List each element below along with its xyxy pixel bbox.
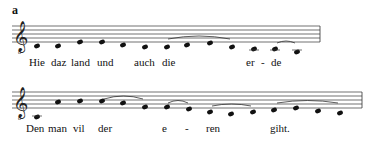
lyric-syllable: - [185, 122, 189, 134]
notehead [227, 111, 234, 117]
notehead [163, 44, 170, 50]
notehead [76, 98, 83, 104]
notehead [119, 42, 126, 48]
notehead [249, 109, 256, 115]
notehead [314, 108, 321, 114]
notehead [54, 43, 61, 49]
notehead [250, 46, 257, 52]
lyric-syllable: land [71, 56, 90, 68]
lyric-syllable: der [98, 122, 112, 134]
notehead [33, 114, 40, 120]
octave-8-marker: 8 [18, 115, 21, 121]
notehead [141, 104, 148, 110]
slur [104, 96, 143, 99]
notehead [185, 106, 192, 112]
lyric-syllable: e [162, 122, 167, 134]
notehead [206, 40, 213, 46]
notehead [98, 39, 105, 45]
slur [168, 101, 188, 104]
lyric-syllable: die [162, 56, 175, 68]
notehead [119, 100, 126, 106]
lyric-syllable: und [97, 56, 114, 68]
notehead [228, 44, 235, 50]
lyric-syllable: de [271, 56, 281, 68]
lyric-syllable: - [261, 56, 265, 68]
lyric-syllable: Hie [29, 56, 45, 68]
notehead [206, 109, 213, 115]
octave-8-marker: 8 [18, 49, 21, 55]
notehead [292, 105, 299, 111]
lyric-syllable: ren [206, 122, 220, 134]
lyric-syllable: vil [73, 122, 85, 134]
lyric-syllable: Den [26, 122, 44, 134]
notehead [271, 46, 278, 52]
lyric-syllable: man [48, 122, 67, 134]
music-score: 𝄞8𝄞8 [0, 0, 374, 141]
notehead [141, 44, 148, 50]
notehead [163, 104, 170, 110]
slur [277, 101, 338, 104]
lyric-syllable: daz [51, 56, 66, 68]
notehead [76, 39, 83, 45]
lyric-syllable: er [246, 56, 255, 68]
notehead [33, 43, 40, 49]
lyric-syllable: giht. [270, 122, 290, 134]
lyric-syllable: auch [134, 56, 155, 68]
notehead [183, 42, 190, 48]
notehead [336, 110, 343, 116]
slur [168, 36, 230, 39]
